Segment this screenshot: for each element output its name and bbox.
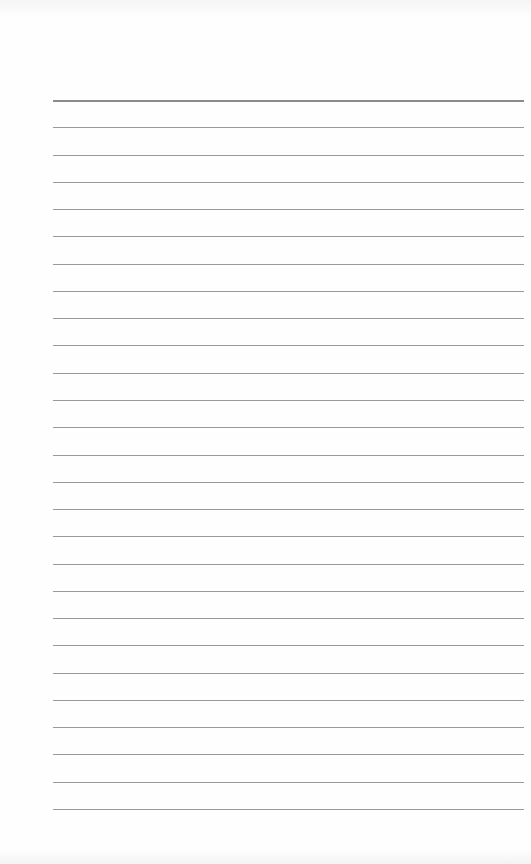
rule-line <box>53 673 524 674</box>
rule-line <box>53 782 524 783</box>
rule-line <box>53 536 524 537</box>
rule-line <box>53 645 524 646</box>
rule-line <box>53 427 524 428</box>
rule-line <box>53 127 524 128</box>
rule-line <box>53 700 524 701</box>
rule-line <box>53 236 524 237</box>
lined-paper-page <box>0 0 531 864</box>
rule-line <box>53 209 524 210</box>
header-rule-line <box>53 100 524 102</box>
rule-line <box>53 455 524 456</box>
rule-line <box>53 291 524 292</box>
rule-line <box>53 618 524 619</box>
ruled-lines <box>53 0 524 864</box>
rule-line <box>53 400 524 401</box>
rule-line <box>53 754 524 755</box>
bleed-through-bottom <box>0 850 531 864</box>
rule-line <box>53 591 524 592</box>
rule-line <box>53 809 524 810</box>
rule-line <box>53 482 524 483</box>
rule-line <box>53 155 524 156</box>
rule-line <box>53 564 524 565</box>
rule-line <box>53 373 524 374</box>
rule-line <box>53 727 524 728</box>
rule-line <box>53 345 524 346</box>
rule-line <box>53 318 524 319</box>
rule-line <box>53 264 524 265</box>
rule-line <box>53 182 524 183</box>
rule-line <box>53 509 524 510</box>
